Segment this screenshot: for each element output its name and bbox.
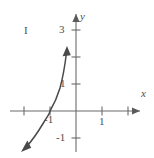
x-axis-label: x [141, 88, 146, 99]
exponential-function-graph-figure: I x y 3 1 -1 -1 1 [0, 0, 154, 158]
y-axis-label: y [80, 11, 85, 22]
curve-upper-arrowhead [63, 46, 71, 56]
y-axis-arrowhead [72, 14, 79, 22]
y-tick-label-neg-1: -1 [56, 132, 65, 143]
x-tick-label-neg-1: -1 [44, 114, 53, 125]
panel-label: I [24, 25, 28, 36]
x-tick-label-1: 1 [99, 116, 105, 127]
y-tick-label-1: 1 [60, 78, 66, 89]
y-tick-label-3: 3 [59, 24, 65, 35]
x-axis-arrowhead [132, 107, 140, 114]
